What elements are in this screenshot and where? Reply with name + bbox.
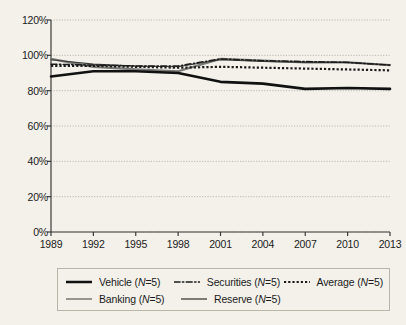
legend-item-banking[interactable]: Banking (N=5) <box>66 293 181 305</box>
legend-item-securities[interactable]: Securities (N=5) <box>174 276 284 288</box>
plot-area: 0%20%40%60%80%100%120% 19891992199519982… <box>0 0 406 262</box>
legend-label-securities: Securities (N=5) <box>207 276 280 288</box>
legend-swatch-reserve-icon <box>181 293 207 305</box>
legend-swatch-vehicle-icon <box>66 276 92 288</box>
x-tick-label: 2004 <box>252 238 275 250</box>
x-tick-label: 2013 <box>379 238 402 250</box>
chart-legend: Vehicle (N=5) Securities (N=5) Average (… <box>57 268 390 311</box>
x-tick-label: 1989 <box>40 238 63 250</box>
x-tick-label: 1998 <box>167 238 190 250</box>
legend-label-vehicle: Vehicle (N=5) <box>99 276 160 288</box>
legend-swatch-average-icon <box>284 276 310 288</box>
legend-label-average: Average (N=5) <box>317 276 383 288</box>
legend-swatch-banking-icon <box>66 293 92 305</box>
x-tick-label: 2010 <box>336 238 359 250</box>
line-chart: 0%20%40%60%80%100%120% 19891992199519982… <box>0 0 406 325</box>
legend-item-reserve[interactable]: Reserve (N=5) <box>181 293 298 305</box>
legend-item-vehicle[interactable]: Vehicle (N=5) <box>66 276 174 288</box>
legend-item-average[interactable]: Average (N=5) <box>284 276 383 288</box>
x-tick-label: 1992 <box>82 238 105 250</box>
x-axis-tick-labels: 198919921995199820012004200720102013 <box>0 0 406 262</box>
legend-row: Vehicle (N=5) Securities (N=5) Average (… <box>66 273 383 290</box>
legend-label-banking: Banking (N=5) <box>99 293 164 305</box>
legend-label-reserve: Reserve (N=5) <box>214 293 281 305</box>
legend-row: Banking (N=5) Reserve (N=5) <box>66 290 383 307</box>
x-tick-label: 1995 <box>124 238 147 250</box>
x-tick-label: 2001 <box>209 238 232 250</box>
legend-swatch-securities-icon <box>174 276 200 288</box>
x-tick-label: 2007 <box>294 238 317 250</box>
